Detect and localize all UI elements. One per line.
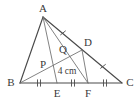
geometry-figure: A B C D E F P Q 4 cm bbox=[0, 0, 137, 103]
point-label-E: E bbox=[54, 87, 61, 99]
point-label-F: F bbox=[85, 87, 91, 99]
point-label-D: D bbox=[84, 36, 92, 48]
side-AB bbox=[20, 17, 43, 83]
point-label-A: A bbox=[39, 2, 47, 14]
geometry-canvas: A B C D E F P Q 4 cm bbox=[0, 0, 137, 103]
point-label-C: C bbox=[126, 76, 133, 88]
point-label-Q: Q bbox=[59, 43, 67, 55]
measurement-label-4cm: 4 cm bbox=[58, 66, 77, 76]
point-label-P: P bbox=[40, 58, 46, 70]
point-label-B: B bbox=[7, 76, 14, 88]
